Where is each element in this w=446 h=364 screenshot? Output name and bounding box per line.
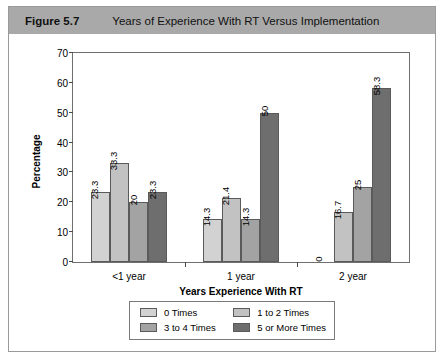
bar-value-label: 58.3 xyxy=(371,77,382,96)
x-tick-mark xyxy=(297,262,298,267)
figure-container: Figure 5.7 Years of Experience With RT V… xyxy=(8,6,436,352)
chart-legend: 0 Times1 to 2 Times3 to 4 Times5 or More… xyxy=(129,301,335,340)
bar: 14.3 xyxy=(241,219,260,262)
bar-value-label: 20 xyxy=(128,195,139,206)
legend-item: 3 to 4 Times xyxy=(140,322,227,333)
legend-swatch xyxy=(140,323,157,332)
legend-label: 5 or More Times xyxy=(257,322,326,333)
bar: 23.3 xyxy=(148,192,167,262)
bar-value-label: 14.3 xyxy=(240,208,251,227)
x-axis-title: Years Experience With RT xyxy=(72,286,410,297)
bar-value-label: 23.3 xyxy=(147,181,158,200)
legend-label: 1 to 2 Times xyxy=(257,307,309,318)
legend-item: 1 to 2 Times xyxy=(233,307,326,318)
bar-value-label: 16.7 xyxy=(332,201,343,220)
legend-label: 0 Times xyxy=(164,307,197,318)
y-tick-label: 20 xyxy=(57,197,68,208)
bar-group: 23.333.32023.3 xyxy=(91,53,167,262)
bar: 50 xyxy=(260,113,279,262)
legend-item: 0 Times xyxy=(140,307,227,318)
x-tick-mark xyxy=(185,262,186,267)
y-tick-label: 0 xyxy=(62,257,68,268)
bar-group: 14.321.414.350 xyxy=(203,53,279,262)
plot-frame: 010203040506070 23.333.32023.314.321.414… xyxy=(72,52,410,263)
bar: 21.4 xyxy=(222,198,241,262)
bar-value-label: 21.4 xyxy=(220,187,231,206)
x-category-label: 2 year xyxy=(339,271,367,282)
bar-value-label: 23.3 xyxy=(89,181,100,200)
bar: 25 xyxy=(353,187,372,262)
bar-value-label: 25 xyxy=(352,180,363,191)
bar: 14.3 xyxy=(203,219,222,262)
bar-value-label: 14.3 xyxy=(201,208,212,227)
y-tick-label: 50 xyxy=(57,107,68,118)
legend-swatch xyxy=(233,323,250,332)
chart-area: Percentage 010203040506070 23.333.32023.… xyxy=(9,34,437,352)
y-tick-label: 30 xyxy=(57,167,68,178)
y-tick-label: 40 xyxy=(57,137,68,148)
y-tick-label: 10 xyxy=(57,227,68,238)
legend-swatch xyxy=(140,308,157,317)
y-tick-label: 70 xyxy=(57,48,68,59)
bars-container: 23.333.32023.314.321.414.350016.72558.3 xyxy=(73,53,409,262)
figure-caption: Years of Experience With RT Versus Imple… xyxy=(112,15,379,27)
y-axis-title: Percentage xyxy=(31,117,42,207)
x-category-label: 1 year xyxy=(227,271,255,282)
figure-header: Figure 5.7 Years of Experience With RT V… xyxy=(9,7,435,34)
y-tick-label: 60 xyxy=(57,77,68,88)
legend-swatch xyxy=(233,308,250,317)
bar-group: 016.72558.3 xyxy=(315,53,391,262)
bar: 33.3 xyxy=(110,163,129,262)
bar: 16.7 xyxy=(334,212,353,262)
figure-number: Figure 5.7 xyxy=(25,15,79,27)
bar: 58.3 xyxy=(372,88,391,262)
bar-value-label: 50 xyxy=(259,105,270,116)
legend-label: 3 to 4 Times xyxy=(164,322,216,333)
bar-value-label: 0 xyxy=(313,256,324,261)
x-category-label: <1 year xyxy=(112,271,146,282)
bar: 20 xyxy=(129,202,148,262)
legend-item: 5 or More Times xyxy=(233,322,326,333)
bar: 23.3 xyxy=(91,192,110,262)
bar-value-label: 33.3 xyxy=(108,151,119,170)
